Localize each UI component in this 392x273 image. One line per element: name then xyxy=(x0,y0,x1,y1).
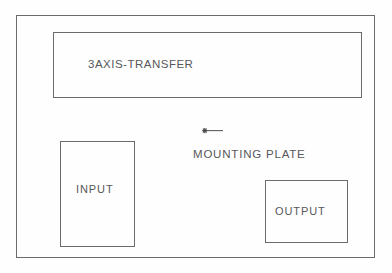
transfer-unit-label: 3AXIS-TRANSFER xyxy=(88,59,193,71)
input-station-label: INPUT xyxy=(76,184,114,195)
diagram-canvas: 3AXIS-TRANSFER INPUT OUTPUT MOUNTING PLA… xyxy=(0,0,392,273)
asterisk-leader-icon xyxy=(198,124,224,138)
output-station-label: OUTPUT xyxy=(275,206,326,217)
asterisk-with-leader-line-icon xyxy=(198,124,224,138)
mounting-plate-label: MOUNTING PLATE xyxy=(193,149,306,161)
